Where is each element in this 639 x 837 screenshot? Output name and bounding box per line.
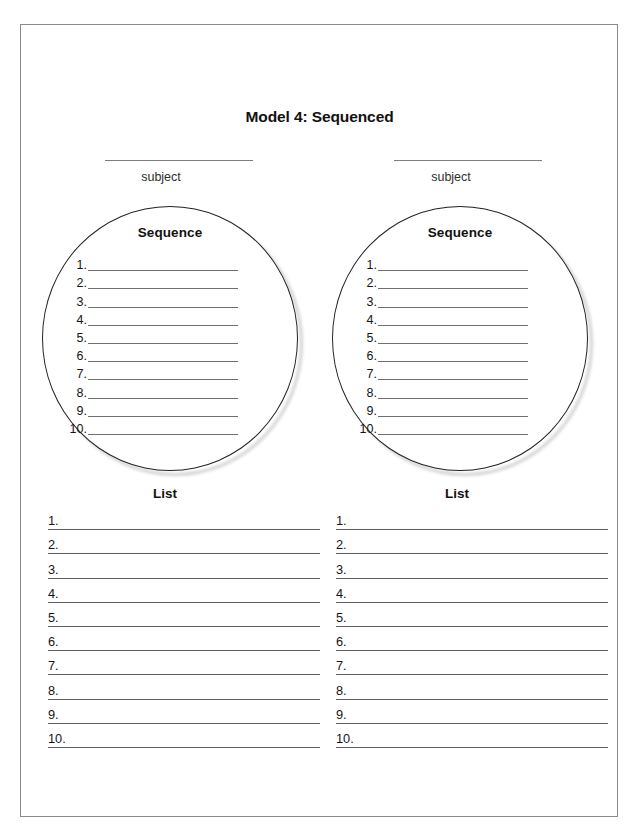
sequence-write-in-line[interactable]	[378, 434, 528, 435]
list-row: 2.	[336, 530, 608, 554]
list-item-number: 3.	[48, 563, 59, 576]
sequence-write-in-line[interactable]	[378, 361, 528, 362]
list-row: 10.	[336, 724, 608, 748]
sequence-write-in-line[interactable]	[378, 288, 528, 289]
list-item-number: 7.	[48, 659, 59, 672]
list-row: 3.	[336, 554, 608, 578]
sequence-row: 7.	[43, 363, 299, 381]
sequence-write-in-line[interactable]	[88, 307, 238, 308]
sequence-write-in-line[interactable]	[378, 416, 528, 417]
sequence-heading: Sequence	[43, 225, 297, 240]
sequence-row: 6.	[333, 345, 589, 363]
list-row: 5.	[48, 603, 320, 627]
list-write-in-line[interactable]	[336, 747, 608, 748]
list-item-number: 5.	[336, 611, 347, 624]
sequence-item-number: 3.	[333, 296, 378, 309]
sequence-row: 7.	[333, 363, 589, 381]
list-item-number: 1.	[48, 514, 59, 527]
sequence-row: 9.	[333, 400, 589, 418]
subject-label: subject	[20, 170, 310, 184]
sequence-item-number: 4.	[43, 314, 88, 327]
sequence-item-number: 8.	[43, 387, 88, 400]
sequence-row: 5.	[43, 327, 299, 345]
list-row: 4.	[48, 579, 320, 603]
sequence-row: 10.	[333, 418, 589, 436]
sequence-item-number: 7.	[43, 368, 88, 381]
list-row: 5.	[336, 603, 608, 627]
sequence-item-number: 6.	[333, 350, 378, 363]
list-heading: List	[20, 486, 320, 501]
worksheet-column-left: subject Sequence 1. 2. 3. 4.	[20, 0, 310, 837]
sequence-row: 8.	[333, 381, 589, 399]
circle-outline: Sequence 1. 2. 3. 4.	[42, 206, 298, 471]
sequence-write-in-line[interactable]	[378, 398, 528, 399]
sequence-item-number: 10.	[333, 423, 378, 436]
subject-write-in-line[interactable]	[394, 160, 542, 161]
list-write-in-line[interactable]	[48, 747, 320, 748]
list-item-number: 2.	[336, 538, 347, 551]
sequence-write-in-line[interactable]	[88, 416, 238, 417]
sequence-item-number: 7.	[333, 368, 378, 381]
list-row: 6.	[48, 627, 320, 651]
sequence-write-in-line[interactable]	[88, 288, 238, 289]
list-row: 8.	[336, 675, 608, 699]
sequence-item-number: 9.	[333, 405, 378, 418]
sequence-write-in-line[interactable]	[378, 325, 528, 326]
list-item-number: 10.	[48, 732, 66, 745]
subject-write-in-line[interactable]	[105, 160, 253, 161]
sequence-row: 4.	[333, 309, 589, 327]
sequence-row: 6.	[43, 345, 299, 363]
sequence-write-in-line[interactable]	[88, 270, 238, 271]
sequence-write-in-line[interactable]	[378, 307, 528, 308]
sequence-write-in-line[interactable]	[378, 379, 528, 380]
circle-outline: Sequence 1. 2. 3. 4.	[332, 206, 588, 471]
sequence-write-in-line[interactable]	[88, 343, 238, 344]
sequence-write-in-line[interactable]	[378, 270, 528, 271]
list-row: 3.	[48, 554, 320, 578]
sequence-write-in-line[interactable]	[88, 434, 238, 435]
sequence-item-number: 3.	[43, 296, 88, 309]
sequence-write-in-line[interactable]	[88, 379, 238, 380]
list-item-number: 4.	[48, 587, 59, 600]
sequence-row: 1.	[333, 254, 589, 272]
sequence-item-number: 8.	[333, 387, 378, 400]
list-rows: 1. 2. 3. 4. 5. 6. 7. 8.	[336, 506, 626, 748]
list-item-number: 9.	[48, 708, 59, 721]
sequence-row: 1.	[43, 254, 299, 272]
sequence-circle: Sequence 1. 2. 3. 4.	[332, 206, 588, 471]
sequence-row: 2.	[43, 272, 299, 290]
sequence-row: 2.	[333, 272, 589, 290]
sequence-write-in-line[interactable]	[88, 361, 238, 362]
subject-block: subject	[20, 160, 310, 184]
list-item-number: 2.	[48, 538, 59, 551]
sequence-row: 10.	[43, 418, 299, 436]
list-item-number: 5.	[48, 611, 59, 624]
list-row: 6.	[336, 627, 608, 651]
list-item-number: 10.	[336, 732, 354, 745]
list-item-number: 8.	[48, 684, 59, 697]
sequence-row: 8.	[43, 381, 299, 399]
sequence-item-number: 5.	[333, 332, 378, 345]
sequence-rows: 1. 2. 3. 4. 5.	[43, 254, 299, 436]
worksheet-column-right: subject Sequence 1. 2. 3. 4.	[312, 0, 602, 837]
sequence-row: 3.	[333, 290, 589, 308]
sequence-item-number: 4.	[333, 314, 378, 327]
sequence-heading: Sequence	[333, 225, 587, 240]
sequence-item-number: 2.	[43, 277, 88, 290]
list-row: 1.	[48, 506, 320, 530]
list-item-number: 9.	[336, 708, 347, 721]
sequence-write-in-line[interactable]	[88, 325, 238, 326]
list-item-number: 8.	[336, 684, 347, 697]
sequence-rows: 1. 2. 3. 4. 5.	[333, 254, 589, 436]
list-row: 9.	[336, 700, 608, 724]
subject-label: subject	[312, 170, 602, 184]
list-row: 7.	[48, 651, 320, 675]
sequence-row: 3.	[43, 290, 299, 308]
list-row: 4.	[336, 579, 608, 603]
sequence-write-in-line[interactable]	[378, 343, 528, 344]
sequence-item-number: 1.	[43, 259, 88, 272]
list-rows: 1. 2. 3. 4. 5. 6. 7. 8.	[48, 506, 338, 748]
list-row: 9.	[48, 700, 320, 724]
sequence-write-in-line[interactable]	[88, 398, 238, 399]
sequence-item-number: 5.	[43, 332, 88, 345]
